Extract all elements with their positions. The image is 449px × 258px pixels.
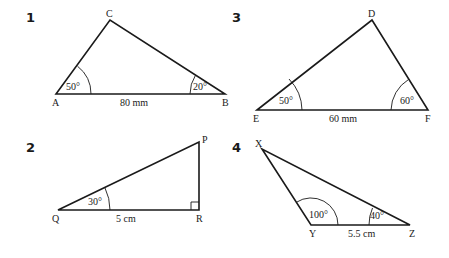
angle-label-z: 40°: [370, 210, 384, 221]
side-length-ef: 60 mm: [329, 113, 357, 124]
figure-number: 4: [232, 140, 241, 155]
angle-label-y: 100°: [309, 209, 328, 220]
vertex-label-b: B: [222, 97, 229, 108]
angle-label-e: 50°: [279, 95, 293, 106]
figure-4: 4 100° 40° X Y Z 5.5 cm: [232, 138, 415, 239]
figure-3: 3 50° 60° E D F 60 mm: [232, 8, 431, 124]
vertex-label-d: D: [368, 8, 375, 19]
angle-label-f: 60°: [400, 95, 414, 106]
figure-number: 1: [26, 10, 35, 25]
vertex-label-z: Z: [409, 228, 415, 239]
vertex-label-f: F: [425, 113, 431, 124]
side-length-ab: 80 mm: [120, 97, 148, 108]
figure-2: 2 30° Q P R 5 cm: [26, 134, 208, 224]
right-angle-marker-r: [191, 202, 199, 210]
vertex-label-y: Y: [309, 228, 316, 239]
triangle-diagram: 1 50° 20° A C B 80 mm 3 50° 60° E D F 60…: [0, 0, 449, 258]
vertex-label-c: C: [106, 8, 113, 19]
angle-label-q: 30°: [88, 196, 102, 207]
figure-number: 3: [232, 10, 241, 25]
vertex-label-p: P: [202, 134, 208, 145]
angle-label-a: 50°: [66, 81, 80, 92]
vertex-label-x: X: [255, 138, 263, 149]
vertex-label-q: Q: [52, 213, 60, 224]
angle-arc-q: [105, 187, 110, 210]
angle-label-b: 20°: [193, 81, 207, 92]
triangle-pqr: [58, 142, 199, 210]
side-length-qr: 5 cm: [116, 213, 136, 224]
side-length-yz: 5.5 cm: [348, 228, 375, 239]
figure-number: 2: [26, 140, 35, 155]
vertex-label-a: A: [52, 97, 60, 108]
figure-1: 1 50° 20° A C B 80 mm: [26, 8, 229, 108]
vertex-label-r: R: [196, 213, 203, 224]
vertex-label-e: E: [253, 113, 259, 124]
